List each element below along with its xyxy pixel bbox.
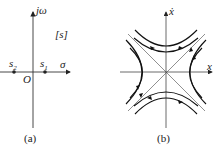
xdot-axis-label: ẋ [169,5,174,17]
figure-canvas [0,0,218,151]
s1-label: s1 [40,57,48,72]
s-plane-label: [s] [55,28,68,40]
caption-b: (b) [157,132,170,144]
panel-b-axes [120,12,212,128]
origin-label: O [23,73,31,85]
x-axis-label: x [207,60,212,72]
caption-a: (a) [24,132,36,144]
jw-axis-label: jω [36,4,47,16]
sigma-label: σ [60,58,65,70]
s2-label: s2 [9,57,17,72]
